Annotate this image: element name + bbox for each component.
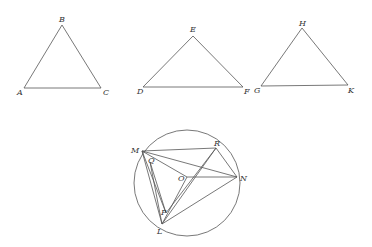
segment-rl — [162, 148, 216, 224]
vertex-label-a: A — [16, 88, 23, 97]
vertex-label-c: C — [103, 88, 109, 97]
segment-rn — [216, 148, 237, 177]
vertex-label-k: K — [347, 86, 355, 95]
triangle-abc: ABC — [16, 15, 109, 97]
vertex-label-h: H — [298, 19, 307, 28]
vertex-label-d: D — [136, 87, 144, 96]
segment-rp — [166, 148, 216, 213]
geometry-diagram: ABC DEF GHK MRNOQPL — [0, 0, 372, 247]
triangle-ghk-outline — [261, 28, 348, 86]
point-label-q: Q — [148, 156, 155, 165]
vertex-label-g: G — [254, 86, 261, 95]
point-label-r: R — [213, 139, 220, 148]
triangle-def-outline — [143, 36, 243, 87]
point-label-n: N — [239, 174, 248, 183]
triangle-abc-outline — [24, 25, 101, 88]
point-label-l: L — [156, 227, 162, 236]
vertex-label-f: F — [243, 87, 250, 96]
point-label-p: P — [160, 208, 167, 217]
segment-mn — [142, 151, 237, 177]
circumcircle — [134, 130, 240, 236]
triangle-def: DEF — [136, 25, 250, 96]
point-label-m: M — [130, 146, 140, 155]
circle-construction: MRNOQPL — [130, 130, 248, 236]
segment-mr — [142, 148, 216, 151]
segment-ln — [162, 177, 237, 224]
vertex-label-e: E — [189, 25, 196, 34]
triangle-ghk: GHK — [254, 19, 355, 95]
point-label-o: O — [178, 174, 185, 183]
vertex-label-b: B — [58, 15, 65, 24]
